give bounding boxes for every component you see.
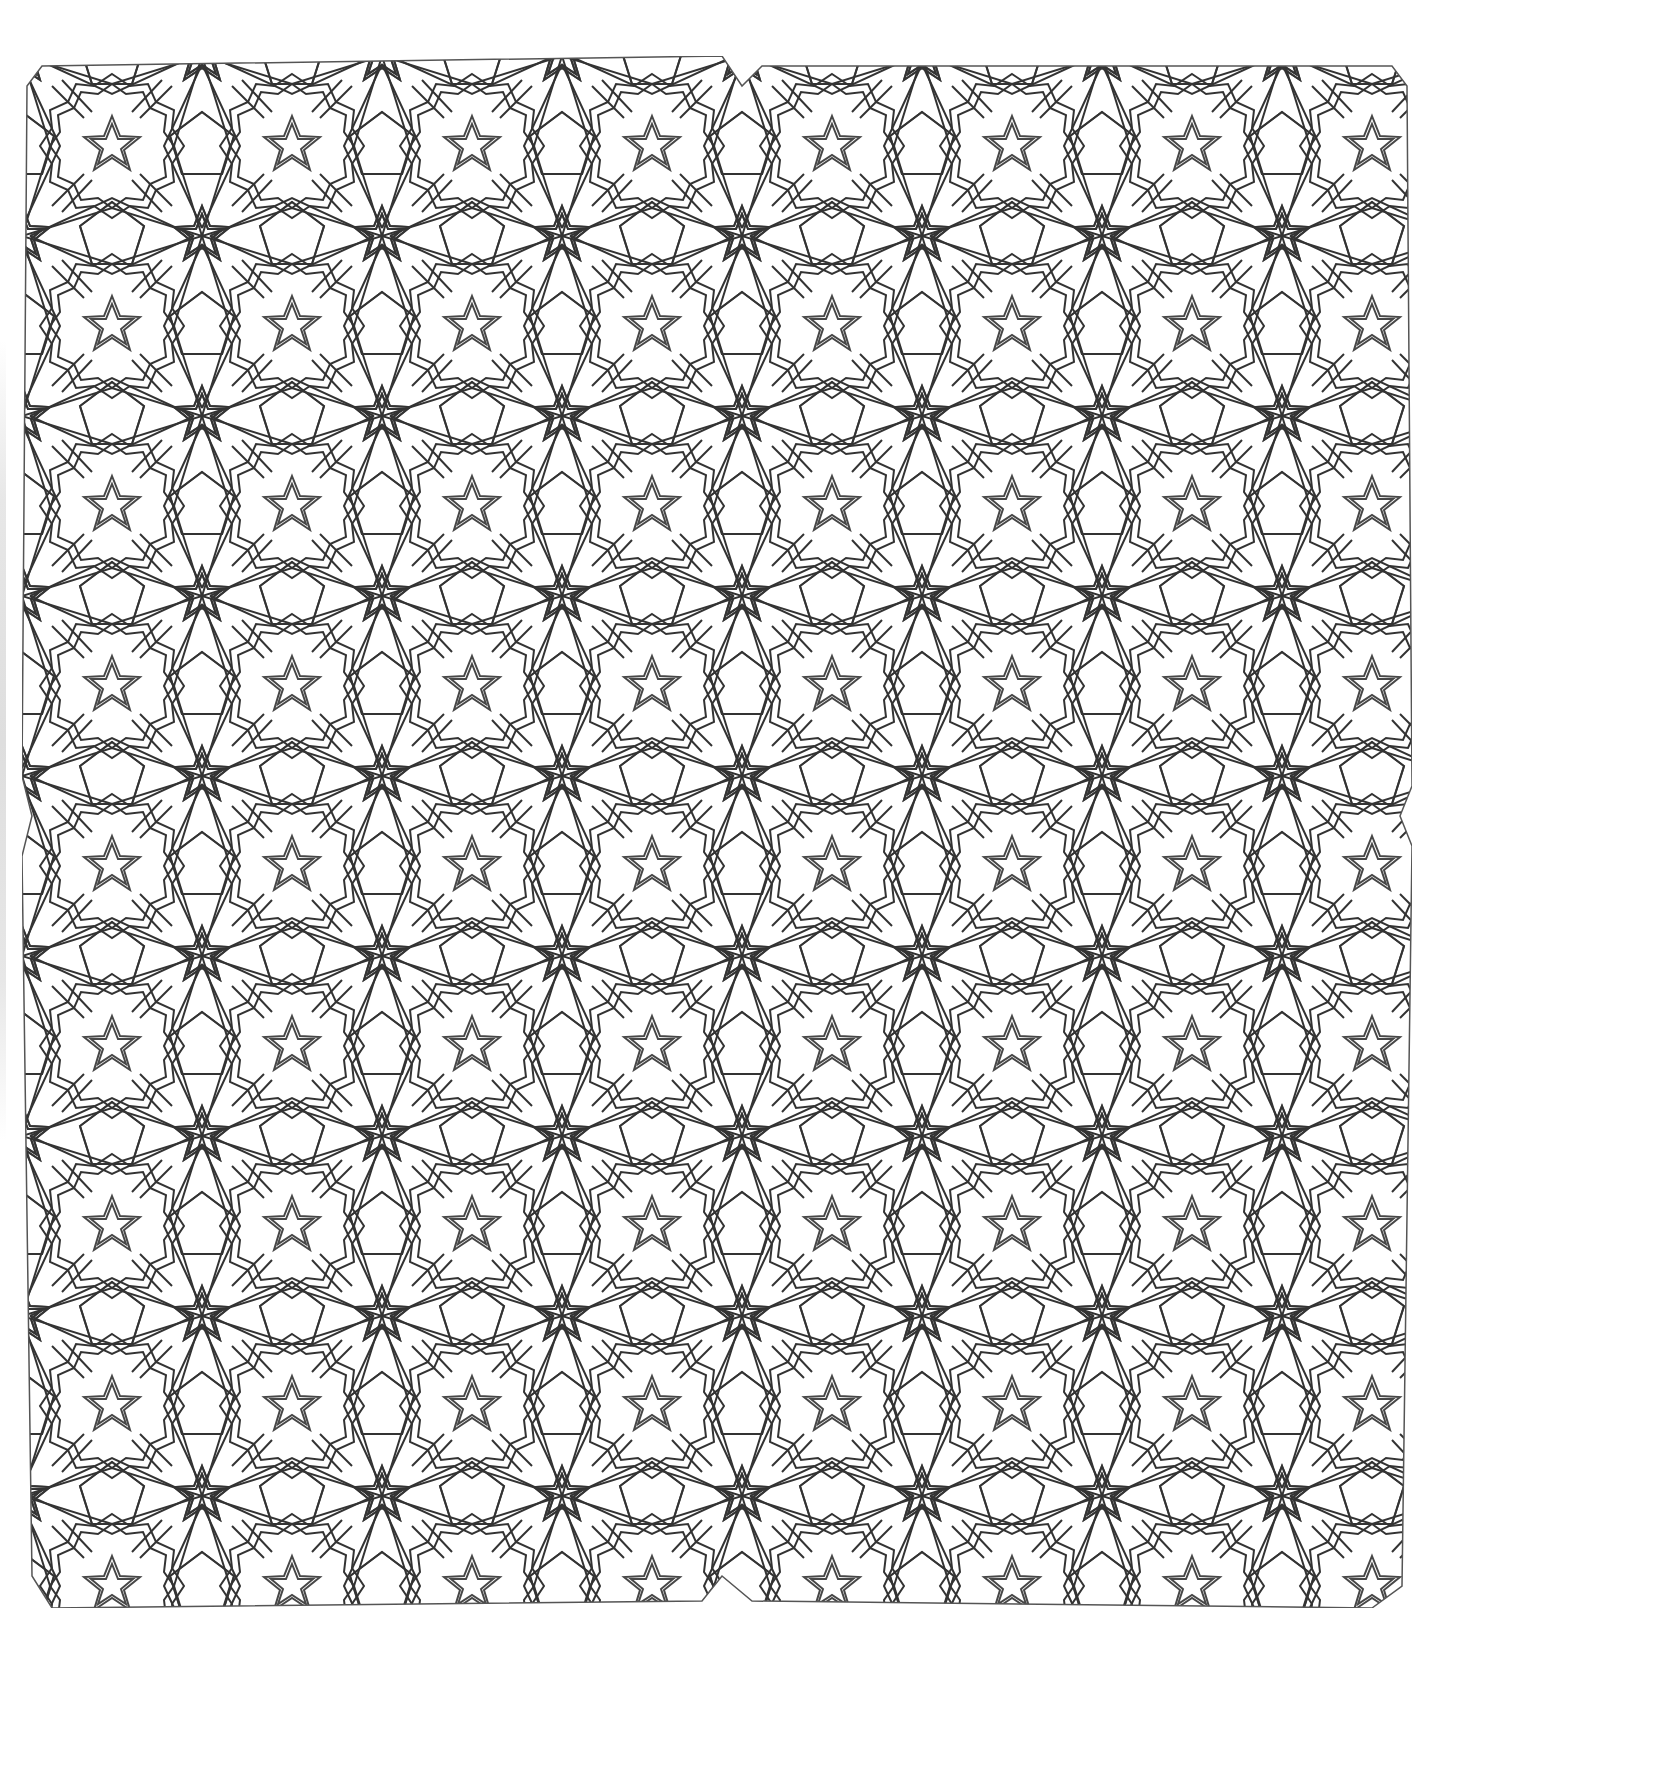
geometric-pattern-artwork [22,56,1412,1608]
scan-edge-shadow [0,340,6,1140]
pattern-field [22,56,1412,1608]
star-tessellation-svg [22,56,1412,1608]
